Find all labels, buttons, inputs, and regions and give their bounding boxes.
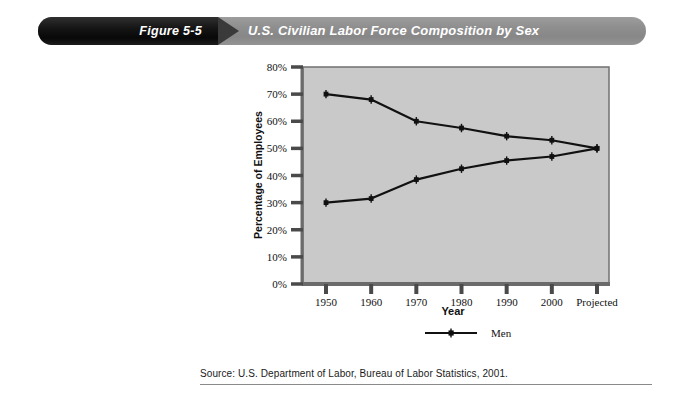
y-tick-label: 60% (267, 115, 287, 127)
y-axis-title: Percentage of Employees (252, 111, 264, 239)
bottom-divider (200, 384, 652, 385)
y-tick-label: 50% (267, 142, 287, 154)
figure-number-label: Figure 5-5 (38, 17, 218, 45)
figure-banner: Figure 5-5 U.S. Civilian Labor Force Com… (38, 17, 646, 45)
chart-figure: 0%10%20%30%40%50%60%70%80% 1950196019701… (0, 55, 688, 345)
legend-label-men: Men (491, 327, 512, 339)
y-tick-label: 20% (267, 224, 287, 236)
y-tick-label: 80% (267, 61, 287, 73)
x-tick-label: 1990 (496, 296, 519, 308)
x-tick-label: Projected (576, 296, 618, 308)
y-tick-label: 30% (267, 197, 287, 209)
banner-arrow-icon (218, 17, 239, 45)
x-axis-tick-labels: 195019601970198019902000Projected (315, 296, 618, 308)
y-tick-label: 0% (272, 278, 287, 290)
x-tick-label: 1960 (360, 296, 383, 308)
plot-area-background (303, 67, 609, 284)
x-axis-title: Year (441, 305, 465, 317)
source-note: Source: U.S. Department of Labor, Bureau… (200, 368, 508, 379)
x-tick-label: 1950 (315, 296, 338, 308)
figure-title-label: U.S. Civilian Labor Force Composition by… (248, 17, 539, 45)
y-tick-label: 40% (267, 170, 287, 182)
x-tick-label: 2000 (541, 296, 564, 308)
y-tick-label: 70% (267, 88, 287, 100)
y-tick-label: 10% (267, 251, 287, 263)
line-chart: 0%10%20%30%40%50%60%70%80% 1950196019701… (0, 55, 688, 345)
chart-legend: MenWomen (425, 327, 525, 345)
x-tick-label: 1970 (405, 296, 428, 308)
y-axis-tick-labels: 0%10%20%30%40%50%60%70%80% (267, 61, 287, 290)
